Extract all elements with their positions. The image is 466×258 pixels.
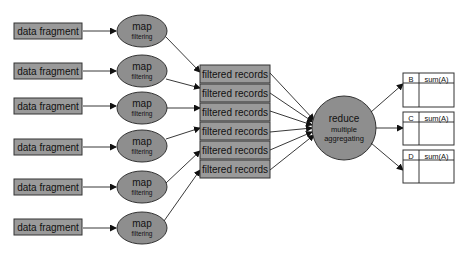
svg-text:map: map bbox=[132, 61, 152, 72]
filtered-records-node: filtered records bbox=[200, 122, 270, 140]
svg-text:map: map bbox=[132, 177, 152, 188]
svg-text:map: map bbox=[132, 136, 152, 147]
svg-text:filtering: filtering bbox=[132, 189, 153, 197]
svg-text:sum(A): sum(A) bbox=[424, 114, 449, 123]
data-fragment-node: data fragment bbox=[14, 98, 82, 114]
svg-text:sum(A): sum(A) bbox=[424, 152, 449, 161]
svg-text:D: D bbox=[408, 152, 414, 161]
svg-text:filtered records: filtered records bbox=[202, 126, 268, 137]
map-node: map filtering bbox=[117, 15, 167, 47]
filtered-records-node: filtered records bbox=[200, 103, 270, 121]
map-node: map filtering bbox=[117, 92, 167, 124]
records-to-reduce-edges bbox=[270, 73, 314, 170]
svg-text:filtered records: filtered records bbox=[202, 164, 268, 175]
svg-text:filtering: filtering bbox=[132, 230, 153, 238]
filtered-records-node: filtered records bbox=[200, 160, 270, 178]
filtered-records-column: filtered records filtered records filter… bbox=[200, 65, 270, 178]
svg-text:filtered records: filtered records bbox=[202, 145, 268, 156]
data-fragment-node: data fragment bbox=[14, 23, 82, 39]
svg-text:data fragment: data fragment bbox=[17, 182, 79, 193]
svg-text:multiple: multiple bbox=[331, 125, 357, 134]
map-node: map filtering bbox=[117, 130, 167, 162]
data-fragment-node: data fragment bbox=[14, 179, 82, 195]
svg-text:filtered records: filtered records bbox=[202, 107, 268, 118]
data-fragment-node: data fragment bbox=[14, 139, 82, 155]
svg-text:filtered records: filtered records bbox=[202, 69, 268, 80]
map-to-records-edges bbox=[164, 37, 200, 221]
fragment-to-map-edges bbox=[83, 31, 116, 228]
svg-text:C: C bbox=[408, 114, 414, 123]
svg-text:data fragment: data fragment bbox=[17, 66, 79, 77]
svg-text:filtering: filtering bbox=[132, 33, 153, 41]
mapreduce-diagram: data fragment data fragment data fragmen… bbox=[0, 0, 466, 258]
svg-text:filtering: filtering bbox=[132, 73, 153, 81]
filtered-records-node: filtered records bbox=[200, 65, 270, 83]
output-table-c: C sum(A) bbox=[403, 112, 454, 145]
map-node: map filtering bbox=[117, 212, 167, 244]
reduce-node: reduce multiple aggregating bbox=[312, 96, 376, 160]
svg-text:map: map bbox=[132, 218, 152, 229]
svg-text:B: B bbox=[408, 75, 413, 84]
map-node: map filtering bbox=[117, 55, 167, 87]
data-fragment-column: data fragment data fragment data fragmen… bbox=[14, 23, 82, 235]
data-fragment-node: data fragment bbox=[14, 219, 82, 235]
svg-text:data fragment: data fragment bbox=[17, 26, 79, 37]
svg-text:map: map bbox=[132, 98, 152, 109]
svg-text:aggregating: aggregating bbox=[324, 134, 364, 143]
svg-text:reduce: reduce bbox=[329, 113, 360, 124]
output-table-b: B sum(A) bbox=[403, 73, 454, 107]
map-column: map filtering map filtering map filterin… bbox=[117, 15, 167, 244]
svg-text:map: map bbox=[132, 21, 152, 32]
data-fragment-node: data fragment bbox=[14, 63, 82, 79]
svg-text:data fragment: data fragment bbox=[17, 222, 79, 233]
svg-text:filtered records: filtered records bbox=[202, 88, 268, 99]
svg-text:data fragment: data fragment bbox=[17, 142, 79, 153]
svg-text:data fragment: data fragment bbox=[17, 101, 79, 112]
filtered-records-node: filtered records bbox=[200, 84, 270, 102]
svg-text:filtering: filtering bbox=[132, 110, 153, 118]
filtered-records-node: filtered records bbox=[200, 141, 270, 159]
map-node: map filtering bbox=[117, 171, 167, 203]
svg-text:sum(A): sum(A) bbox=[424, 75, 449, 84]
output-table-d: D sum(A) bbox=[403, 150, 454, 183]
svg-text:filtering: filtering bbox=[132, 148, 153, 156]
